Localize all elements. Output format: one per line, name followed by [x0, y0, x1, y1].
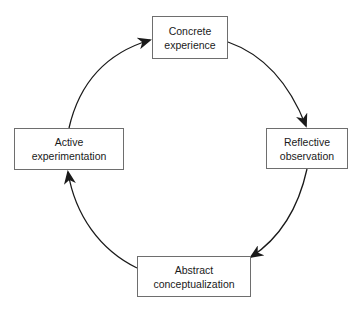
node-label-line1: Abstract	[175, 263, 214, 277]
node-concrete-experience: Concrete experience	[152, 16, 228, 59]
node-label-line1: Concrete	[169, 24, 212, 38]
arrow-reflective-to-abstract	[251, 169, 307, 257]
node-label-line1: Reflective	[284, 135, 330, 149]
arrow-active-to-concrete	[69, 40, 150, 128]
node-label-line2: observation	[280, 149, 334, 163]
node-label-line1: Active	[55, 135, 84, 149]
arrow-concrete-to-reflective	[228, 42, 306, 126]
arrow-abstract-to-active	[68, 172, 137, 268]
learning-cycle-diagram: Concrete experience Reflective observati…	[0, 0, 359, 311]
node-label-line2: experience	[164, 38, 215, 52]
node-active-experimentation: Active experimentation	[14, 128, 124, 170]
node-label-line2: experimentation	[32, 149, 107, 163]
node-label-line2: conceptualization	[153, 277, 234, 291]
node-abstract-conceptualization: Abstract conceptualization	[137, 256, 251, 297]
node-reflective-observation: Reflective observation	[266, 128, 348, 169]
